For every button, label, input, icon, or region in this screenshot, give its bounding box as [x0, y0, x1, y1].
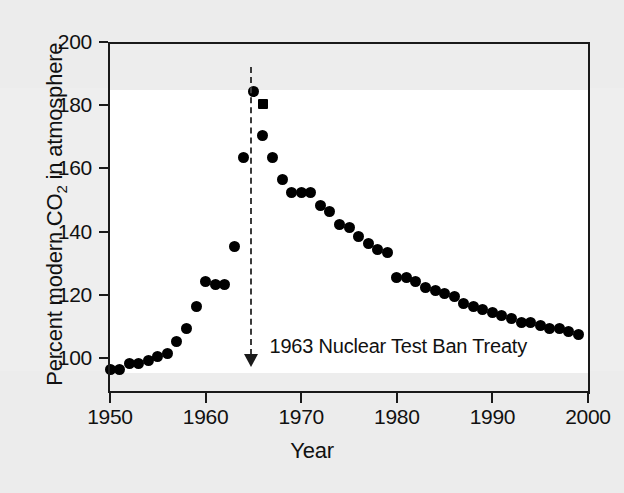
y-axis-label: Percent modern CO2 in atmosphere — [42, 24, 70, 404]
annotation-label: 1963 Nuclear Test Ban Treaty — [269, 335, 527, 358]
x-tick-label: 1950 — [65, 405, 155, 429]
data-point — [114, 364, 125, 375]
data-point — [257, 130, 268, 141]
data-point — [171, 336, 182, 347]
x-tick-label: 1960 — [161, 405, 251, 429]
data-point — [229, 241, 240, 252]
y-tick-mark — [99, 41, 108, 43]
x-axis-line — [108, 391, 590, 393]
figure: 100120140160180200 195019601970198019902… — [0, 0, 624, 493]
y-tick-mark — [99, 104, 108, 106]
y-tick-mark — [99, 357, 108, 359]
x-tick-mark — [491, 393, 493, 403]
data-point — [162, 348, 173, 359]
data-point — [277, 174, 288, 185]
data-point — [573, 329, 584, 340]
data-point — [324, 206, 335, 217]
x-tick-mark — [109, 393, 111, 403]
data-point — [382, 247, 393, 258]
plot-tint-top — [110, 44, 588, 90]
data-point — [305, 187, 316, 198]
annotation-dashed-line — [250, 67, 252, 355]
x-axis-label: Year — [0, 438, 624, 464]
annotation-arrowhead-icon — [244, 354, 258, 367]
x-tick-mark — [587, 393, 589, 403]
data-point — [267, 152, 278, 163]
y-tick-mark — [99, 231, 108, 233]
data-point — [219, 279, 230, 290]
y-tick-mark — [99, 294, 108, 296]
x-tick-label: 1990 — [447, 405, 537, 429]
data-point — [344, 222, 355, 233]
x-tick-mark — [300, 393, 302, 403]
data-point — [181, 323, 192, 334]
x-tick-mark — [205, 393, 207, 403]
x-tick-label: 2000 — [543, 405, 624, 429]
x-tick-mark — [396, 393, 398, 403]
x-tick-label: 1980 — [352, 405, 442, 429]
y-axis-line — [108, 42, 110, 392]
data-point — [191, 301, 202, 312]
y-tick-mark — [99, 167, 108, 169]
data-point — [258, 99, 268, 109]
data-point — [238, 152, 249, 163]
x-tick-label: 1970 — [256, 405, 346, 429]
